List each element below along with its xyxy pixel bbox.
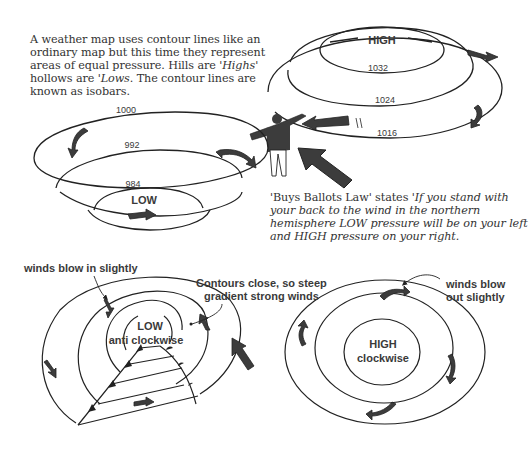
high-hill-title: HIGH — [368, 34, 396, 46]
arrow-icon — [128, 209, 156, 220]
isobar-label-1024: 1024 — [375, 95, 395, 105]
gradient-note: Contours close, so steep gradient strong… — [196, 277, 327, 303]
arrow-icon — [199, 314, 210, 330]
low-bowl-arrows — [68, 128, 256, 220]
isobar-label-1032: 1032 — [368, 63, 388, 73]
isobar-label-992: 992 — [124, 140, 139, 150]
arrow-icon — [68, 128, 88, 158]
arrow-icon — [44, 360, 56, 378]
callout-winds-out-line1: winds blow — [446, 278, 505, 291]
low-map-center-title: LOW — [137, 320, 163, 332]
low-map-arrows — [44, 298, 254, 406]
person-figure — [250, 114, 306, 176]
arrow-icon — [380, 286, 410, 300]
high-hill-arrows — [302, 50, 498, 130]
low-bowl-title: LOW — [131, 194, 157, 206]
arrow-icon — [104, 298, 114, 318]
weather-map-diagram: HIGH 1032 1024 1016 1000 992 984 LOW — [0, 0, 532, 449]
intro-paragraph: A weather map uses contour lines like an… — [30, 33, 280, 98]
callout-leader — [404, 275, 440, 284]
isobar-label-984: 984 — [125, 179, 140, 189]
arrow-icon — [366, 402, 396, 420]
high-map-rotation: clockwise — [357, 352, 409, 364]
arrow-icon — [134, 397, 154, 406]
wind-arrow-icon — [298, 148, 352, 188]
term-lows: 'Lows — [98, 72, 130, 85]
buys-ballot-law-paragraph: 'Buys Ballots Law' states 'If you stand … — [270, 191, 530, 243]
isobar-label-1016: 1016 — [377, 128, 397, 138]
callout-winds-in: winds blow in slightly — [24, 262, 138, 275]
isobar-label-1000: 1000 — [116, 105, 136, 115]
term-highs: 'Highs' — [219, 59, 258, 72]
arrow-icon — [298, 320, 308, 346]
gradient-note-line1: Contours close, so steep — [196, 277, 327, 290]
law-lead: 'Buys Ballots Law' states — [270, 191, 412, 204]
callout-winds-out: winds blow out slightly — [446, 278, 505, 304]
arrow-icon — [471, 105, 482, 128]
low-map-rotation: anti clockwise — [109, 334, 184, 346]
gradient-note-line2: gradient strong winds — [196, 290, 327, 303]
callout-winds-out-line2: out slightly — [446, 291, 505, 304]
intro-text: hollows are — [30, 72, 98, 85]
high-map-center-title: HIGH — [369, 338, 397, 350]
